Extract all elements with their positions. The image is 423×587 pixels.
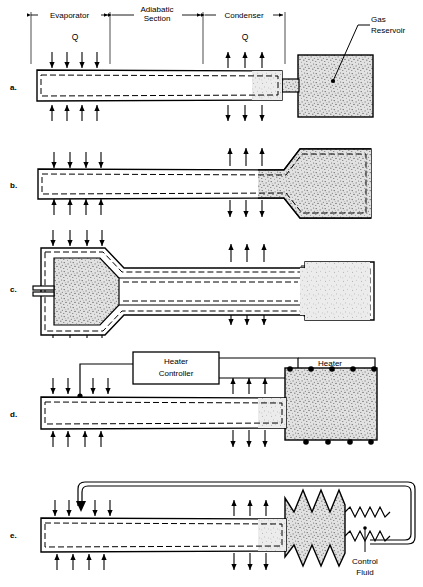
gas-reservoir-d	[285, 368, 377, 440]
panel-letter-a: a.	[10, 83, 17, 92]
label-heater-controller-line1: Heater	[164, 357, 188, 366]
reservoir-neck-a	[282, 79, 299, 92]
label-q-condenser-a: Q	[242, 32, 249, 42]
label-adiabatic-line2: Section	[144, 14, 171, 23]
label-gas-reservoir-line1: Gas	[371, 15, 386, 24]
label-control-fluid-line1: Control	[352, 557, 378, 566]
label-adiabatic-line1: Adiabatic	[141, 5, 174, 14]
svg-text:Evaporator: Evaporator	[50, 11, 89, 20]
label-heater-controller-line2: Controller	[159, 369, 194, 378]
label-q-evaporator-a: Q	[72, 32, 79, 42]
reservoir-feed-tube-c	[33, 286, 54, 290]
label-condenser: Condenser	[224, 11, 263, 20]
label-heater-d: Heater	[318, 359, 342, 368]
label-gas-reservoir-line2: Reservoir	[371, 26, 406, 35]
panel-letter-c: c.	[10, 285, 17, 294]
gas-reservoir-c	[54, 258, 119, 325]
panel-letter-b: b.	[10, 181, 17, 190]
panel-letter-d: d.	[10, 410, 17, 419]
heat-pipe-figure: Evaporator Evaporator Adiabatic Section …	[0, 0, 423, 587]
panel-letter-e: e.	[10, 531, 17, 540]
condenser-gas-c	[300, 262, 370, 320]
label-control-fluid-line2: Fluid	[356, 568, 373, 577]
gas-reservoir-a	[298, 55, 373, 117]
